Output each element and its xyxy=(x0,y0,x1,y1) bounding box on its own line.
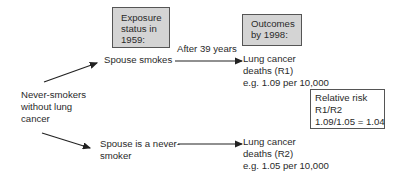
arrow-to-spouse-smokes xyxy=(44,63,97,82)
arrows-layer xyxy=(0,0,404,175)
relative-risk-line1: Relative risk xyxy=(315,92,367,104)
follow-up-label: After 39 years xyxy=(177,43,237,55)
arrow-to-spouse-never-smoker xyxy=(42,133,90,148)
start-population-line2: without lung xyxy=(21,101,72,113)
outcomes-header-line2: by 1998: xyxy=(251,29,288,41)
unexposed-outcome-line3: e.g. 1.05 per 10,000 xyxy=(243,160,329,172)
relative-risk-line3: 1.09/1.05 = 1.04 xyxy=(315,116,385,128)
spouse-never-smoker-line2: smoker xyxy=(100,150,131,162)
exposure-status-header-line2: status in xyxy=(121,23,157,35)
exposed-outcome-line1: Lung cancer xyxy=(243,53,296,65)
spouse-never-smoker-line1: Spouse is a never- xyxy=(100,138,180,150)
exposed-outcome-line2: deaths (R1) xyxy=(243,65,293,77)
start-population-line1: Never-smokers xyxy=(21,89,86,101)
start-population-line3: cancer xyxy=(21,113,50,125)
exposure-status-header-line1: Exposure xyxy=(121,12,162,24)
exposure-status-header-line3: 1959: xyxy=(121,34,145,46)
spouse-smokes-label: Spouse smokes xyxy=(104,54,172,66)
relative-risk-line2: R1/R2 xyxy=(315,104,342,116)
outcomes-header-line1: Outcomes xyxy=(251,18,295,30)
unexposed-outcome-line1: Lung cancer xyxy=(243,136,296,148)
exposed-outcome-line3: e.g. 1.09 per 10,000 xyxy=(243,77,329,89)
unexposed-outcome-line2: deaths (R2) xyxy=(243,148,293,160)
